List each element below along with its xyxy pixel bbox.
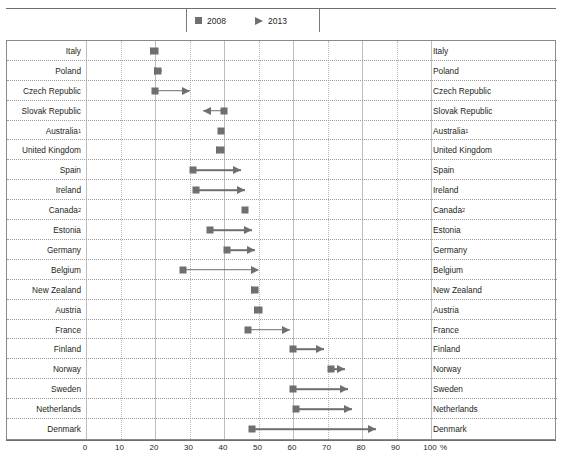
x-tick-30: 30 [184,443,193,452]
marker-2013 [340,385,348,393]
x-tick-20: 20 [150,443,159,452]
legend-item-2013: 2013 [255,9,287,32]
chart-row: BelgiumBelgium [86,260,431,280]
marker-2013 [247,246,255,254]
clipped-title [0,0,562,7]
marker-2013 [344,405,352,413]
row-label-left: Finland [9,340,81,360]
marker-2008 [327,366,334,373]
chart-row: EstoniaEstonia [86,220,431,240]
x-tick-70: 70 [322,443,331,452]
marker-2008 [189,167,196,174]
chart-row: SpainSpain [86,160,431,180]
x-tick-10: 10 [115,443,124,452]
row-label-left: New Zealand [9,280,81,300]
marker-2013 [233,166,241,174]
row-label-right: Norway [433,359,557,379]
row-label-right: Finland [433,340,557,360]
row-label-right: Australia1 [433,121,557,141]
x-tick-80: 80 [357,443,366,452]
chart-row: NetherlandsNetherlands [86,399,431,419]
row-label-left: Poland [9,61,81,81]
row-label-right: Ireland [433,180,557,200]
chart-row: Slovak RepublicSlovak Republic [86,101,431,121]
x-tick-100: 100 [423,443,436,452]
row-label-right: Czech Republic [433,81,557,101]
marker-2013 [337,365,345,373]
marker-2013 [203,107,211,115]
x-tick-50: 50 [253,443,262,452]
row-label-right: Netherlands [433,399,557,419]
row-label-right: Italy [433,41,557,61]
change-connector [252,428,376,430]
x-axis-ticks: 0102030405060708090100 [85,441,430,457]
row-label-left: France [9,320,81,340]
chart-row: IrelandIreland [86,180,431,200]
chart-row: PolandPoland [86,61,431,81]
row-label-left: Ireland [9,180,81,200]
row-label-left: Norway [9,359,81,379]
marker-2008 [152,47,159,54]
marker-2013 [316,345,324,353]
row-label-right: Germany [433,240,557,260]
marker-2008 [217,147,224,154]
row-label-right: Sweden [433,379,557,399]
row-label-right: Denmark [433,419,557,439]
row-label-right: Poland [433,61,557,81]
legend-label-2013: 2013 [268,16,287,26]
x-tick-0: 0 [83,443,87,452]
row-label-left: Slovak Republic [9,101,81,121]
row-label-left: Sweden [9,379,81,399]
chart-row: New ZealandNew Zealand [86,280,431,300]
row-label-left: Czech Republic [9,81,81,101]
chart-row: GermanyGermany [86,240,431,260]
marker-2008 [290,346,297,353]
row-label-right: Austria [433,300,557,320]
row-label-right: New Zealand [433,280,557,300]
marker-2013 [237,186,245,194]
marker-2008 [221,107,228,114]
marker-2008 [245,326,252,333]
marker-2008 [241,207,248,214]
x-tick-40: 40 [219,443,228,452]
chart-legend: 2008 2013 [186,9,320,32]
x-tick-90: 90 [391,443,400,452]
marker-2008 [193,187,200,194]
row-label-right: Slovak Republic [433,101,557,121]
marker-2008 [152,87,159,94]
x-tick-60: 60 [288,443,297,452]
row-label-left: Austria [9,300,81,320]
square-marker-icon [195,17,202,24]
row-label-left: Spain [9,160,81,180]
data-rows: ItalyItalyPolandPolandCzech RepublicCzec… [86,41,431,439]
marker-2013 [368,425,376,433]
marker-2008 [252,286,259,293]
marker-2013 [182,87,190,95]
chart-page: 2008 2013 ItalyItalyPolandPolandCzech Re… [0,0,562,458]
gridline-100 [431,41,432,439]
marker-2008 [155,67,162,74]
row-label-left: Italy [9,41,81,61]
row-label-right: Belgium [433,260,557,280]
marker-2008 [248,426,255,433]
chart-row: SwedenSweden [86,379,431,399]
marker-2008 [290,386,297,393]
row-label-right: France [433,320,557,340]
row-label-left: Belgium [9,260,81,280]
chart-row: ItalyItaly [86,41,431,61]
chart-row: DenmarkDenmark [86,419,431,439]
row-label-left: Australia1 [9,121,81,141]
marker-2013 [282,326,290,334]
marker-2013 [244,226,252,234]
chart-row: FinlandFinland [86,340,431,360]
row-label-left: Netherlands [9,399,81,419]
triangle-marker-icon [255,17,263,25]
row-label-right: United Kingdom [433,141,557,161]
chart-row: Czech RepublicCzech Republic [86,81,431,101]
row-label-right: Spain [433,160,557,180]
marker-2013 [251,266,259,274]
row-label-left: United Kingdom [9,141,81,161]
plot-area: ItalyItalyPolandPolandCzech RepublicCzec… [86,41,431,439]
marker-2008 [293,406,300,413]
change-connector [183,269,259,271]
